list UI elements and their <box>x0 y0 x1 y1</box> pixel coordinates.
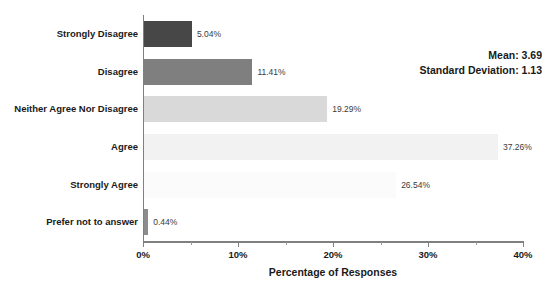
category-label-agree: Agree <box>2 141 138 152</box>
x-tick-major <box>143 242 144 247</box>
x-tick-major <box>428 242 429 247</box>
x-axis-title: Percentage of Responses <box>143 266 523 278</box>
bar-agree <box>144 134 498 160</box>
x-tick-minor <box>476 242 477 245</box>
bar-neither-agree-nor-disagree <box>144 96 327 122</box>
bar-strongly-disagree <box>144 21 192 47</box>
x-tick-major <box>238 242 239 247</box>
y-axis-line <box>143 15 144 241</box>
x-tick-label: 10% <box>228 249 247 260</box>
bar-value-label: 11.41% <box>257 59 285 85</box>
category-axis-labels: Strongly DisagreeDisagreeNeither Agree N… <box>0 15 138 241</box>
bar-value-label: 26.54% <box>401 172 430 198</box>
x-tick-major <box>523 242 524 247</box>
bar-value-label: 0.44% <box>153 209 177 235</box>
bar-value-label: 5.04% <box>197 21 221 47</box>
x-tick-label: 40% <box>513 249 532 260</box>
bar-prefer-not-to-answer <box>144 209 148 235</box>
x-tick-label: 30% <box>418 249 437 260</box>
x-tick-major <box>333 242 334 247</box>
x-tick-label: 20% <box>323 249 342 260</box>
category-label-neither-agree-nor-disagree: Neither Agree Nor Disagree <box>2 103 138 114</box>
bar-value-label: 19.29% <box>332 96 361 122</box>
x-tick-minor <box>381 242 382 245</box>
x-tick-minor <box>191 242 192 245</box>
x-tick-minor <box>286 242 287 245</box>
bar-disagree <box>144 59 252 85</box>
category-label-prefer-not-to-answer: Prefer not to answer <box>2 216 138 227</box>
x-tick-label: 0% <box>136 249 150 260</box>
category-label-strongly-disagree: Strongly Disagree <box>2 28 138 39</box>
survey-bar-chart: Mean: 3.69 Standard Deviation: 1.13 Stro… <box>0 0 548 297</box>
bar-value-label: 37.26% <box>503 134 532 160</box>
category-label-strongly-agree: Strongly Agree <box>2 179 138 190</box>
bar-strongly-agree <box>144 172 396 198</box>
category-label-disagree: Disagree <box>2 66 138 77</box>
plot-area: 5.04%11.41%19.29%37.26%26.54%0.44%0%10%2… <box>143 15 523 241</box>
